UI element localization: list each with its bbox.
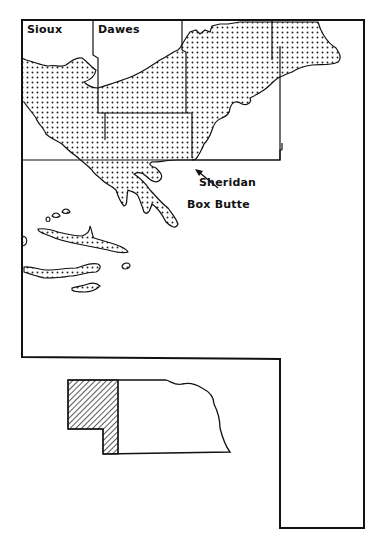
county-label-sioux: Sioux [27, 23, 62, 36]
outlier-small-1 [52, 213, 60, 218]
stippled-region [22, 22, 340, 227]
county-label-sheridan: Sheridan [199, 176, 256, 189]
nebraska-inset [68, 380, 230, 454]
inset-hatched-panhandle [68, 380, 118, 454]
map-canvas [0, 0, 383, 542]
outlier-small-3 [46, 217, 50, 222]
outlier-small-4 [122, 263, 130, 269]
outlier-strip-2 [24, 263, 100, 278]
outlier-strip-3 [72, 283, 100, 292]
outlier-strip-1 [38, 226, 128, 253]
county-label-dawes: Dawes [98, 23, 140, 36]
county-label-box-butte: Box Butte [187, 198, 250, 211]
outlier-small-2 [62, 209, 70, 214]
